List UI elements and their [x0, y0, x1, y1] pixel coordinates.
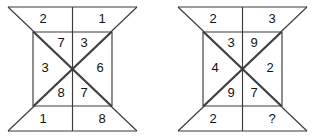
left-inner-middle-right-value: 6	[96, 60, 103, 75]
left-inner-top-right-value: 3	[80, 35, 87, 50]
right-inner-top-right-value: 9	[250, 35, 257, 50]
right-figure: 2 3 3 9 4 2 9 7 2 ?	[170, 0, 316, 139]
left-outer-bottom-right-value: 8	[98, 111, 105, 126]
right-inner-middle-left-value: 4	[211, 60, 218, 75]
right-outer-bottom-right-unknown-value: ?	[268, 111, 275, 126]
right-inner-bottom-right-value: 7	[250, 85, 257, 100]
right-inner-bottom-left-value: 9	[227, 85, 234, 100]
left-inner-middle-left-value: 3	[41, 60, 48, 75]
left-inner-top-left-value: 7	[57, 35, 64, 50]
right-inner-top-left-value: 3	[227, 35, 234, 50]
left-outer-top-right-value: 1	[98, 11, 105, 26]
left-inner-bottom-right-value: 7	[80, 85, 87, 100]
right-outer-bottom-left-value: 2	[209, 111, 216, 126]
left-figure: 2 1 7 3 3 6 8 7 1 8	[0, 0, 152, 139]
right-inner-middle-right-value: 2	[266, 60, 273, 75]
left-inner-bottom-left-value: 8	[57, 85, 64, 100]
left-outer-top-left-value: 2	[39, 11, 46, 26]
right-outer-top-right-value: 3	[268, 11, 275, 26]
puzzle-figures-container: 2 1 7 3 3 6 8 7 1 8 2 3 3 9 4 2 9 7 2 ?	[0, 0, 316, 139]
right-outer-top-left-value: 2	[209, 11, 216, 26]
left-outer-bottom-left-value: 1	[39, 111, 46, 126]
